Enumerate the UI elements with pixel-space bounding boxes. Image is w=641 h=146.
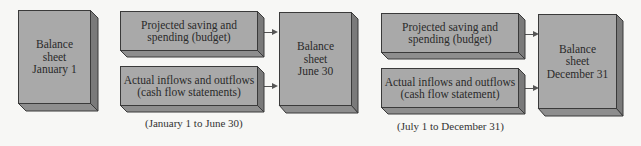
balance-sheet-label: Balance sheet December 31 bbox=[547, 43, 609, 81]
balance-sheet-label: Balance sheet June 30 bbox=[297, 40, 334, 78]
box-front: Projected saving and spending (budget) bbox=[381, 13, 519, 53]
box-front: Projected saving and spending (budget) bbox=[120, 11, 258, 51]
cashflow-label: Actual inflows and outflows (cash flow s… bbox=[124, 74, 255, 99]
box-front: Balance sheet December 31 bbox=[538, 14, 617, 109]
box-front: Actual inflows and outflows (cash flow s… bbox=[120, 66, 258, 106]
box-front: Balance sheet January 1 bbox=[18, 10, 91, 104]
balance-sheet-label: Balance sheet January 1 bbox=[32, 38, 76, 76]
cashflow-label: Actual inflows and outflows (cash flow s… bbox=[385, 76, 516, 101]
budget-label: Projected saving and spending (budget) bbox=[141, 19, 237, 44]
box-front: Actual inflows and outflows (cash flow s… bbox=[381, 68, 519, 108]
budget-label: Projected saving and spending (budget) bbox=[402, 21, 498, 46]
box-front: Balance sheet June 30 bbox=[279, 12, 352, 106]
